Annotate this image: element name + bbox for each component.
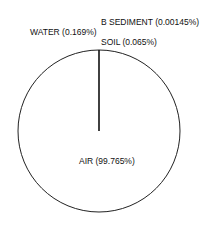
label-soil: SOIL (0.065%) [101, 37, 157, 47]
pie-chart: B SEDIMENT (0.00145%) WATER (0.169%) SOI… [0, 0, 211, 229]
label-sediment: B SEDIMENT (0.00145%) [101, 17, 199, 27]
label-water: WATER (0.169%) [30, 27, 97, 37]
label-air: AIR (99.765%) [79, 156, 135, 166]
